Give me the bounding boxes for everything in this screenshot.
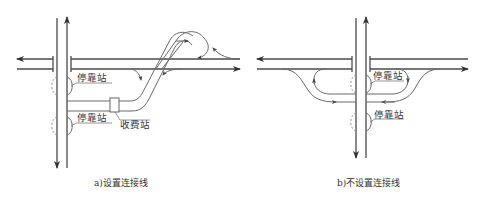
leader-line [370,81,404,84]
interchange-diagram: 停靠站 停靠站 收费站 a)设置连接线 停靠站 [0,0,482,199]
leader-line [71,123,112,126]
stop-label-upper: 停靠站 [373,70,403,81]
connector-diagonal [119,41,192,111]
bus-stop-dashed-icon [351,113,356,131]
entry-ramp-arrow-icon [163,69,182,75]
caption-b: b)不设置连接线 [337,177,400,188]
entry-ramp-arrow-icon [213,48,240,59]
stop-label-upper: 停靠站 [77,72,107,83]
bus-stop-dashed-icon [52,117,57,135]
toll-booth-icon [110,98,119,112]
entry-ramp-left [314,69,356,94]
stop-label-lower: 停靠站 [77,112,107,123]
bus-stop-dashed-icon [351,75,356,93]
exit-ramp-arrow-icon [131,69,141,80]
toll-label: 收费站 [120,119,150,130]
panel-b: 停靠站 停靠站 b)不设置连接线 [257,17,468,188]
leader-line [71,83,112,86]
exit-ramp-arrow-icon [282,69,336,102]
bus-stop-dashed-icon [52,77,57,95]
panel-a: 停靠站 停靠站 收费站 a)设置连接线 [17,17,240,188]
caption-a: a)设置连接线 [94,177,148,188]
loop-ramp [155,32,208,70]
stop-label-lower: 停靠站 [374,109,404,120]
